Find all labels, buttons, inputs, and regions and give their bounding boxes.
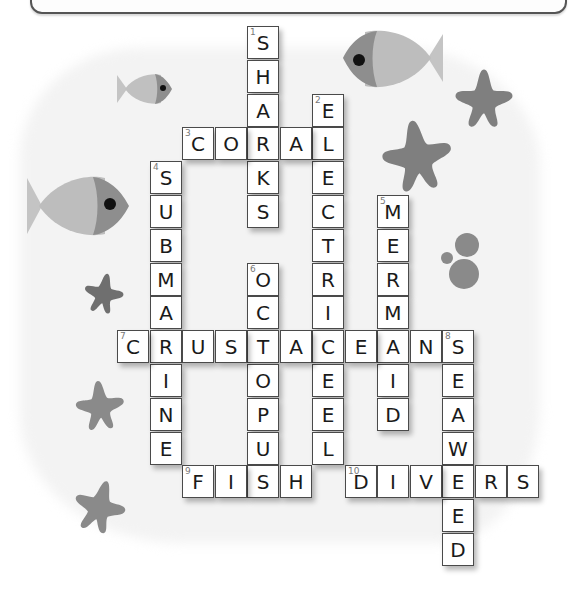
- crossword-cell[interactable]: M: [377, 296, 409, 329]
- cell-letter: U: [191, 335, 206, 359]
- crossword-cell[interactable]: 9F: [182, 465, 214, 498]
- crossword-cell[interactable]: H: [247, 60, 279, 93]
- crossword-cell[interactable]: 8S: [442, 330, 474, 363]
- cell-letter: I: [325, 301, 331, 325]
- crossword-cell[interactable]: C: [247, 296, 279, 329]
- crossword-cell[interactable]: N: [410, 330, 442, 363]
- cell-letter: E: [355, 335, 368, 359]
- crossword-cell[interactable]: S: [215, 330, 247, 363]
- cell-letter: E: [160, 437, 173, 461]
- cell-letter: R: [386, 268, 400, 292]
- crossword-cell[interactable]: I: [150, 364, 182, 397]
- crossword-cell[interactable]: A: [280, 330, 312, 363]
- crossword-cell[interactable]: I: [215, 465, 247, 498]
- cell-letter: A: [159, 301, 173, 325]
- crossword-cell[interactable]: A: [247, 94, 279, 127]
- crossword-cell[interactable]: R: [312, 263, 344, 296]
- crossword-cell[interactable]: P: [247, 398, 279, 431]
- crossword-cell[interactable]: N: [150, 398, 182, 431]
- cell-letter: E: [452, 470, 465, 494]
- crossword-cell[interactable]: R: [475, 465, 507, 498]
- crossword-cell[interactable]: 10D: [345, 465, 377, 498]
- crossword-cell[interactable]: E: [442, 465, 474, 498]
- crossword-cell[interactable]: E: [312, 364, 344, 397]
- crossword-cell[interactable]: 6O: [247, 263, 279, 296]
- crossword-cell[interactable]: A: [442, 398, 474, 431]
- clue-number: 1: [250, 28, 256, 37]
- cell-letter: R: [484, 470, 498, 494]
- crossword-cell[interactable]: R: [377, 263, 409, 296]
- cell-letter: I: [390, 470, 396, 494]
- cell-letter: U: [159, 200, 174, 224]
- crossword-cell[interactable]: C: [312, 330, 344, 363]
- crossword-cell[interactable]: C: [312, 195, 344, 228]
- crossword-cell[interactable]: M: [150, 263, 182, 296]
- cell-letter: P: [257, 403, 269, 427]
- cell-letter: M: [384, 301, 401, 325]
- crossword-cell[interactable]: L: [312, 432, 344, 465]
- crossword-cell[interactable]: A: [280, 127, 312, 160]
- crossword-cell[interactable]: U: [150, 195, 182, 228]
- crossword-cell[interactable]: E: [442, 364, 474, 397]
- crossword-cell[interactable]: D: [442, 533, 474, 566]
- cell-letter: L: [322, 437, 333, 461]
- crossword-cell[interactable]: E: [312, 161, 344, 194]
- crossword-cell[interactable]: S: [507, 465, 539, 498]
- cell-letter: O: [255, 268, 271, 292]
- crossword-cell[interactable]: A: [377, 330, 409, 363]
- cell-letter: I: [163, 369, 169, 393]
- cell-letter: A: [289, 335, 303, 359]
- crossword-cell[interactable]: H: [280, 465, 312, 498]
- crossword-cell[interactable]: 1S: [247, 26, 279, 59]
- cell-letter: A: [451, 403, 465, 427]
- crossword-cell[interactable]: O: [215, 127, 247, 160]
- cell-letter: E: [387, 234, 400, 258]
- crossword-cell[interactable]: L: [312, 127, 344, 160]
- cell-letter: H: [255, 65, 270, 89]
- cell-letter: S: [225, 335, 238, 359]
- cell-letter: D: [450, 538, 465, 562]
- crossword-cell[interactable]: I: [377, 364, 409, 397]
- crossword-cell[interactable]: E: [150, 432, 182, 465]
- cell-letter: N: [159, 403, 174, 427]
- crossword-cell[interactable]: E: [377, 229, 409, 262]
- crossword-cell[interactable]: 7C: [117, 330, 149, 363]
- crossword-cell[interactable]: O: [247, 364, 279, 397]
- cell-letter: I: [228, 470, 234, 494]
- cell-letter: A: [386, 335, 400, 359]
- crossword-cell[interactable]: R: [247, 127, 279, 160]
- clue-number: 4: [153, 163, 159, 172]
- crossword-cell[interactable]: I: [312, 296, 344, 329]
- crossword-cell[interactable]: D: [377, 398, 409, 431]
- crossword-cell[interactable]: E: [442, 499, 474, 532]
- fish-icon: [27, 177, 129, 235]
- crossword-cell[interactable]: E: [345, 330, 377, 363]
- crossword-cell[interactable]: U: [247, 432, 279, 465]
- cell-letter: E: [322, 369, 335, 393]
- cell-letter: E: [322, 99, 335, 123]
- crossword-cell[interactable]: 3C: [182, 127, 214, 160]
- crossword-cell[interactable]: A: [150, 296, 182, 329]
- clue-number: 6: [250, 265, 256, 274]
- crossword-cell[interactable]: T: [312, 229, 344, 262]
- crossword-cell[interactable]: 5M: [377, 195, 409, 228]
- cell-letter: C: [321, 335, 335, 359]
- crossword-cell[interactable]: 4S: [150, 161, 182, 194]
- crossword-cell[interactable]: R: [150, 330, 182, 363]
- crossword-cell[interactable]: B: [150, 229, 182, 262]
- crossword-cell[interactable]: K: [247, 161, 279, 194]
- cell-letter: E: [322, 403, 335, 427]
- crossword-cell[interactable]: V: [410, 465, 442, 498]
- cell-letter: R: [321, 268, 335, 292]
- cell-letter: O: [223, 132, 239, 156]
- cell-letter: M: [384, 200, 401, 224]
- crossword-cell[interactable]: E: [312, 398, 344, 431]
- crossword-cell[interactable]: T: [247, 330, 279, 363]
- crossword-cell[interactable]: U: [182, 330, 214, 363]
- cell-letter: C: [126, 335, 140, 359]
- crossword-cell[interactable]: W: [442, 432, 474, 465]
- crossword-cell[interactable]: I: [377, 465, 409, 498]
- crossword-cell[interactable]: S: [247, 195, 279, 228]
- crossword-cell[interactable]: 2E: [312, 94, 344, 127]
- crossword-cell[interactable]: S: [247, 465, 279, 498]
